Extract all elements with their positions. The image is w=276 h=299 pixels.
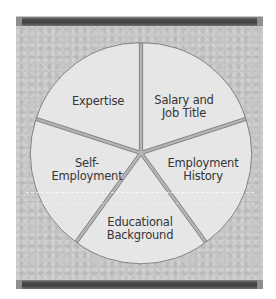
scan-artifact-line: [26, 203, 254, 204]
slice-label-educational-background: Educational Background: [107, 216, 174, 242]
pie-chart: [0, 0, 276, 299]
scan-artifact-line: [26, 192, 254, 193]
slice-label-expertise: Expertise: [72, 95, 124, 108]
slice-label-salary-job-title: Salary and Job Title: [154, 94, 213, 120]
slice-label-employment-history: Employment History: [168, 157, 239, 183]
slice-label-self-employment: Self- Employment: [52, 157, 123, 183]
